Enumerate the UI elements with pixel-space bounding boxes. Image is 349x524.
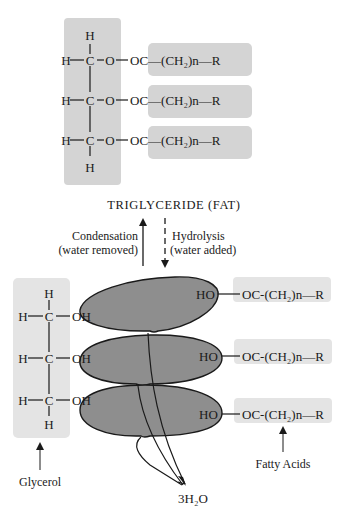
fatty-acids-label: Fatty Acids — [255, 457, 310, 471]
ester-chain-label: OC—(CH₂)n—R — [130, 133, 221, 148]
c-atom: C — [86, 93, 95, 108]
water-product-label: 3H₂O — [178, 491, 208, 506]
c-atom: C — [45, 309, 54, 324]
reaction-arrows: Condensation (water removed) Hydrolysis … — [58, 218, 236, 266]
hydrolysis-label: Hydrolysis — [172, 229, 225, 243]
bottom-h-atom: H — [85, 160, 94, 175]
h-atom: H — [61, 53, 70, 68]
ho-group: HO — [196, 287, 215, 302]
ellipse-1 — [80, 277, 218, 332]
condensation-ellipses — [80, 277, 222, 486]
h-atom: H — [18, 309, 27, 324]
ester-chain-label: OC—(CH₂)n—R — [130, 93, 221, 108]
c-atom: C — [86, 133, 95, 148]
c-atom: C — [45, 393, 54, 408]
top-h-atom: H — [85, 28, 94, 43]
glycerol-oh-groups: OH OH OH — [72, 309, 91, 408]
triglyceride-structure: H H C O H C O H C O H OC—(CH₂)n—R OC—(CH… — [61, 18, 252, 185]
fatty-acid-chain-label: OC-(CH₂)n—R — [242, 407, 324, 422]
ho-group: HO — [199, 407, 218, 422]
o-atom: O — [105, 93, 114, 108]
triglyceride-diagram: H H C O H C O H C O H OC—(CH₂)n—R OC—(CH… — [0, 0, 349, 524]
condensation-label: Condensation — [72, 229, 138, 243]
h-atom: H — [61, 133, 70, 148]
oh-group: OH — [72, 393, 91, 408]
ester-chain-label: OC—(CH₂)n—R — [130, 53, 221, 68]
hydrolysis-sublabel: (water added) — [170, 243, 236, 257]
h-atom: H — [18, 393, 27, 408]
ho-group: HO — [199, 349, 218, 364]
o-atom: O — [105, 133, 114, 148]
triglyceride-title: TRIGLYCERIDE (FAT) — [107, 198, 240, 212]
c-atom: C — [45, 351, 54, 366]
fatty-acid-chain-label: OC-(CH₂)n—R — [242, 287, 324, 302]
c-atom: C — [86, 53, 95, 68]
bottom-h-atom: H — [44, 417, 53, 432]
h-atom: H — [18, 351, 27, 366]
glycerol-label: Glycerol — [19, 475, 62, 489]
h-atom: H — [61, 93, 70, 108]
glycerol-structure: H H C H C H C H Glycerol — [13, 278, 70, 489]
oh-group: OH — [72, 351, 91, 366]
fatty-acid-chain-label: OC-(CH₂)n—R — [242, 349, 324, 364]
condensation-sublabel: (water removed) — [58, 243, 138, 257]
top-h-atom: H — [44, 286, 53, 301]
o-atom: O — [105, 53, 114, 68]
oh-group: OH — [72, 309, 91, 324]
